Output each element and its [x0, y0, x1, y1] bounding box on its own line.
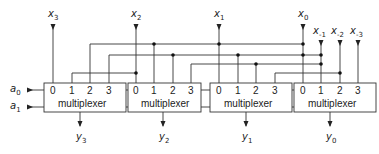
mux1-pin-2: 2 — [253, 86, 259, 96]
mux3-pin-2: 2 — [87, 86, 93, 96]
input-label-x-2: x-2 — [331, 26, 344, 39]
mux0-label: multiplexer — [308, 99, 356, 109]
select-label-a1: a1 — [10, 101, 21, 114]
input-label-x-3: x-3 — [350, 26, 363, 39]
mux0-pin-3: 3 — [355, 86, 361, 96]
mux0-pin-1: 1 — [318, 86, 324, 96]
mux3-pin-0: 0 — [50, 86, 56, 96]
mux1-pin-0: 0 — [216, 86, 222, 96]
input-label-x3: x3 — [48, 9, 58, 22]
mux3-pin-3: 3 — [106, 86, 112, 96]
circuit-wiring — [0, 0, 379, 154]
mux1-pin-1: 1 — [235, 86, 241, 96]
mux2-label: multiplexer — [141, 99, 189, 109]
mux2-pin-0: 0 — [133, 86, 139, 96]
mux2-pin-2: 2 — [170, 86, 176, 96]
mux1-label: multiplexer — [224, 99, 272, 109]
output-label-y0: y0 — [326, 132, 336, 145]
mux0-pin-0: 0 — [300, 86, 306, 96]
mux2-pin-3: 3 — [188, 86, 194, 96]
select-label-a0: a0 — [10, 84, 21, 97]
mux0-pin-2: 2 — [337, 86, 343, 96]
mux3-pin-1: 1 — [69, 86, 75, 96]
mux2-pin-1: 1 — [151, 86, 157, 96]
output-label-y1: y1 — [242, 132, 252, 145]
input-label-x1: x1 — [214, 9, 224, 22]
output-label-y3: y3 — [76, 132, 86, 145]
input-label-x2: x2 — [131, 9, 141, 22]
output-label-y2: y2 — [159, 132, 169, 145]
input-label-x0: x0 — [298, 9, 308, 22]
mux1-pin-3: 3 — [272, 86, 278, 96]
mux3-label: multiplexer — [58, 99, 106, 109]
input-label-x-1: x-1 — [313, 26, 326, 39]
